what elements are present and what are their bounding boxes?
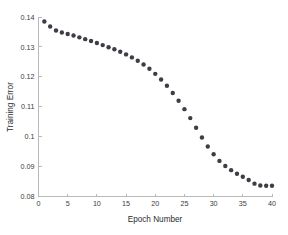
data-point [77, 35, 81, 39]
data-point [223, 164, 227, 168]
data-point [200, 135, 204, 139]
data-point [130, 55, 134, 59]
data-point [171, 91, 175, 95]
y-axis-title: Training Error [6, 82, 15, 132]
data-point [270, 184, 274, 188]
scatter-plot: 0510152025303540 0.080.090.10.110.120.13… [0, 0, 288, 235]
data-point [229, 168, 233, 172]
x-tick-label: 10 [93, 199, 101, 208]
y-axis-tick-labels: 0.080.090.10.110.120.130.14 [21, 13, 35, 202]
x-tick-label: 20 [151, 199, 159, 208]
data-point [60, 30, 64, 34]
x-axis-tick-labels: 0510152025303540 [37, 199, 277, 208]
data-point [194, 125, 198, 129]
data-point [124, 52, 128, 56]
data-point [54, 28, 58, 32]
x-tick-label: 5 [66, 199, 70, 208]
data-point [159, 77, 163, 81]
y-tick-label: 0.13 [21, 43, 35, 52]
data-point [252, 181, 256, 185]
chart-figure: 0510152025303540 0.080.090.10.110.120.13… [0, 0, 288, 235]
data-point [48, 24, 52, 28]
data-point [211, 152, 215, 156]
y-tick-label: 0.08 [21, 192, 35, 201]
data-point [71, 33, 75, 37]
x-tick-label: 0 [37, 199, 41, 208]
data-point-group [42, 19, 274, 188]
data-point [258, 183, 262, 187]
x-axis-title: Epoch Number [128, 215, 183, 224]
x-tick-label: 40 [268, 199, 276, 208]
x-tick-label: 30 [210, 199, 218, 208]
data-point [153, 72, 157, 76]
data-point [42, 19, 46, 23]
data-point [241, 175, 245, 179]
data-point [89, 39, 93, 43]
data-point [106, 45, 110, 49]
data-point [141, 62, 145, 66]
y-tick-label: 0.14 [21, 13, 35, 22]
data-point [217, 159, 221, 163]
y-tick-label: 0.1 [25, 132, 35, 141]
data-point [246, 178, 250, 182]
data-point [182, 107, 186, 111]
data-point [176, 99, 180, 103]
x-tick-label: 15 [122, 199, 130, 208]
data-point [95, 41, 99, 45]
data-point [165, 84, 169, 88]
data-point [118, 50, 122, 54]
y-tick-label: 0.12 [21, 72, 35, 81]
data-point [101, 43, 105, 47]
data-point [264, 184, 268, 188]
y-tick-label: 0.09 [21, 162, 35, 171]
x-tick-label: 25 [180, 199, 188, 208]
data-point [147, 67, 151, 71]
data-point [112, 47, 116, 51]
y-tick-label: 0.11 [21, 102, 34, 111]
data-point [136, 58, 140, 62]
data-point [65, 32, 69, 36]
data-point [188, 116, 192, 120]
data-point [235, 172, 239, 176]
data-point [83, 37, 87, 41]
x-tick-label: 35 [239, 199, 247, 208]
data-point [206, 144, 210, 148]
